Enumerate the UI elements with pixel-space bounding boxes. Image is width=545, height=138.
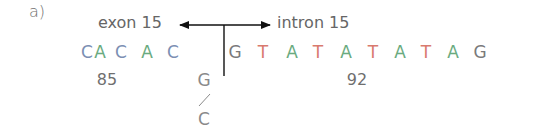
sequence-base-exon: C (81, 44, 93, 61)
variant-alternate-base: C (198, 111, 210, 128)
variant-slash (199, 94, 210, 106)
splice-junction-arrows (0, 0, 545, 138)
position-label-92: 92 (347, 72, 367, 88)
sequence-base-intron: A (394, 44, 406, 61)
position-label-85: 85 (97, 72, 117, 88)
sequence-base-exon: A (141, 44, 153, 61)
sequence-base-exon: C (115, 44, 127, 61)
sequence-base-intron: T (313, 44, 323, 61)
sequence-base-intron: T (258, 44, 268, 61)
sequence-base-intron: A (286, 44, 298, 61)
sequence-base-intron: T (421, 44, 431, 61)
sequence-base-intron: A (447, 44, 459, 61)
sequence-base-intron: A (340, 44, 352, 61)
sequence-base-exon: A (94, 44, 106, 61)
variant-reference-base: G (197, 72, 210, 89)
sequence-base-intron: T (368, 44, 378, 61)
sequence-base-intron: G (228, 44, 241, 61)
sequence-base-exon: C (167, 44, 179, 61)
sequence-base-intron: G (473, 44, 486, 61)
